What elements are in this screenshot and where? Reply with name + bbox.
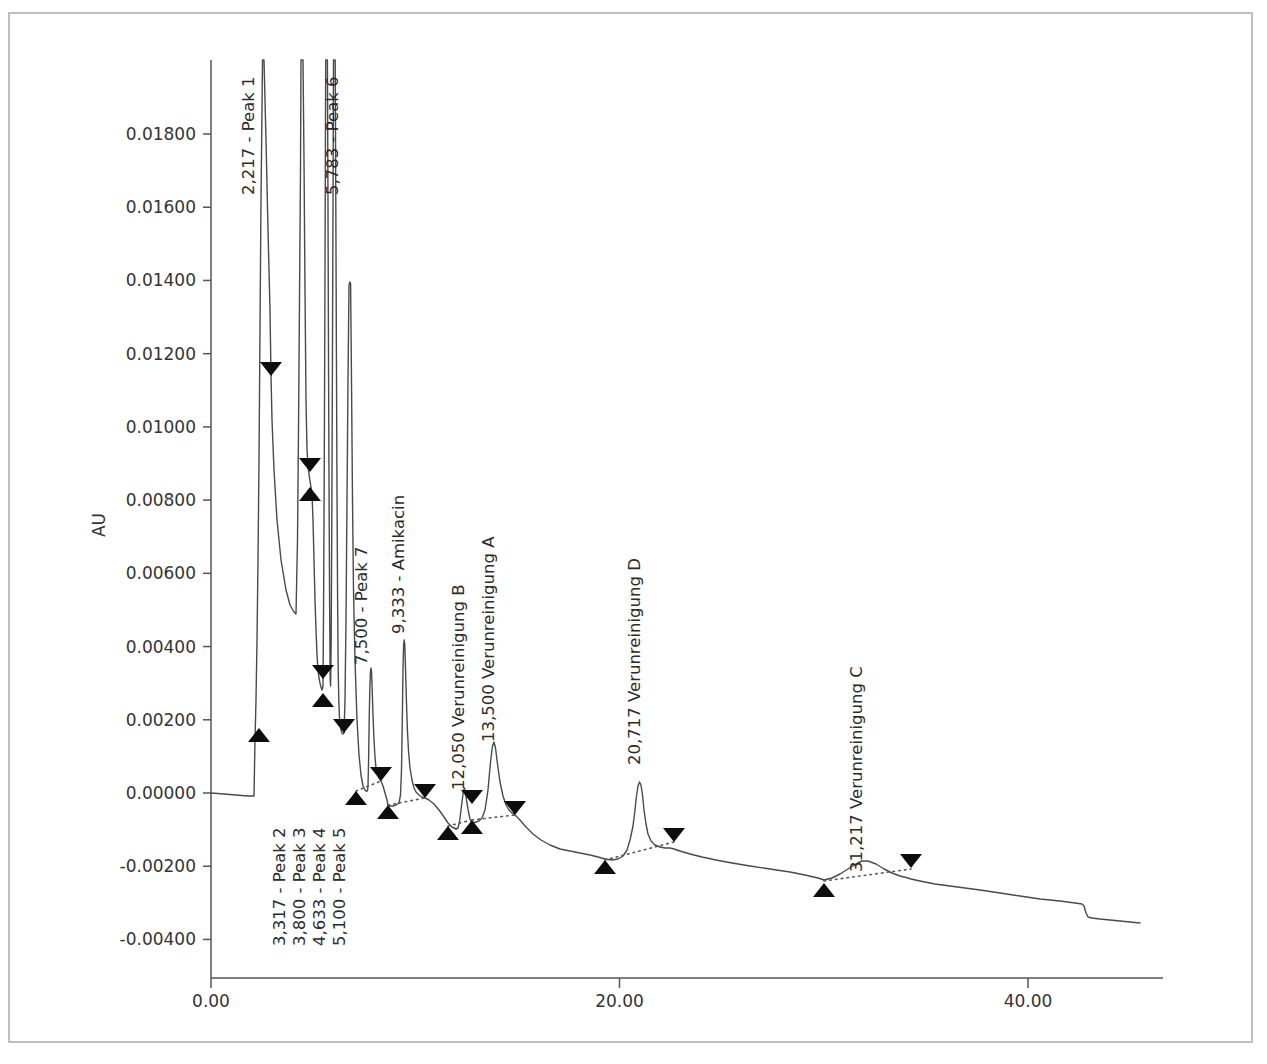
peak-end-marker-icon (414, 784, 436, 798)
peak-label-amikacin: 9,333 - Amikacin (389, 495, 408, 634)
chromatogram-plot: 0.018000.016000.014000.012000.010000.008… (0, 0, 1267, 1064)
peak-end-marker-icon (663, 828, 685, 842)
y-tick-label: 0.01200 (126, 344, 196, 364)
y-tick-label: 0.00200 (126, 710, 196, 730)
x-tick-label: 40.00 (1004, 991, 1053, 1011)
x-tick-label: 0.00 (192, 991, 230, 1011)
peak-label-peak-6: 5,783 - Peak 6 (323, 76, 342, 195)
peak-label-peak-4: 4,633 - Peak 4 (310, 827, 329, 946)
signal-trace-amikacin (399, 640, 456, 829)
axis-group (211, 60, 1163, 978)
peak-label-peak-5: 5,100 - Peak 5 (330, 827, 349, 946)
x-axis-ticks: 0.0020.0040.00 (192, 978, 1052, 1011)
signal-trace-early (211, 60, 367, 796)
y-tick-label: 0.01400 (126, 270, 196, 290)
y-axis-title: AU (89, 513, 109, 537)
peak-label-peak-3: 3,800 - Peak 3 (290, 827, 309, 946)
baseline-verunreinigung-a (472, 815, 515, 820)
peak-start-marker-icon (248, 728, 270, 742)
x-tick-label: 20.00 (595, 991, 644, 1011)
peak-end-marker-icon (370, 767, 392, 781)
y-tick-label: 0.00400 (126, 637, 196, 657)
y-tick-label: -0.00400 (120, 929, 196, 949)
peak-start-marker-icon (813, 883, 835, 897)
signal-trace-verunreinigung-c (824, 861, 1140, 923)
peak-end-marker-icon (299, 458, 321, 472)
y-tick-label: 0.00800 (126, 490, 196, 510)
baseline-amikacin (388, 798, 425, 805)
peak-label-peak-2: 3,317 - Peak 2 (270, 827, 289, 946)
y-tick-label: 0.01000 (126, 417, 196, 437)
peak-end-marker-icon (260, 362, 282, 376)
peak-label-peak-1: 2,217 - Peak 1 (239, 76, 258, 195)
y-axis-ticks: 0.018000.016000.014000.012000.010000.008… (120, 124, 211, 949)
peak-end-marker-icon (461, 790, 483, 804)
signal-trace-verunreinigung-a (473, 742, 605, 859)
y-tick-label: 0.01800 (126, 124, 196, 144)
signal-trace-peak7 (367, 668, 399, 806)
peak-label-verunreinigung-a: 13,500 Verunreinigung A (479, 536, 498, 742)
y-tick-label: 0.00600 (126, 563, 196, 583)
peak-label-peak-7: 7,500 - Peak 7 (352, 546, 371, 665)
peak-start-marker-icon (594, 860, 616, 874)
y-tick-label: 0.00000 (126, 783, 196, 803)
peak-start-marker-icon (377, 805, 399, 819)
peak-markers (248, 362, 922, 897)
peak-end-marker-icon (900, 854, 922, 868)
peak-label-verunreinigung-d: 20,717 Verunreinigung D (625, 558, 644, 765)
peak-start-marker-icon (312, 693, 334, 707)
signal-trace-verunreinigung-d (605, 782, 824, 880)
peak-start-marker-icon (299, 487, 321, 501)
integration-baselines (356, 781, 911, 881)
peak-start-marker-icon (345, 791, 367, 805)
baseline-verunreinigung-d (605, 842, 674, 860)
y-tick-label: 0.01600 (126, 197, 196, 217)
peak-label-verunreinigung-c: 31,217 Verunreinigung C (847, 666, 866, 872)
peak-end-marker-icon (333, 719, 355, 733)
peak-label-verunreinigung-b: 12,050 Verunreinigung B (449, 585, 468, 790)
y-tick-label: -0.00200 (120, 856, 196, 876)
trace-group (211, 60, 1140, 923)
screenshot-root: 0.018000.016000.014000.012000.010000.008… (0, 0, 1267, 1064)
